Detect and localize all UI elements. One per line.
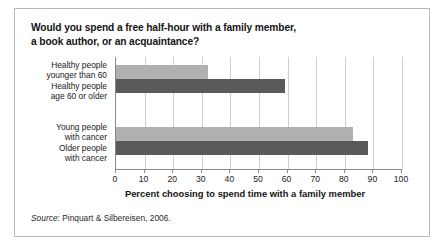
tick-mark [344, 170, 345, 173]
source-label: Source [31, 213, 58, 223]
gridline [402, 57, 403, 169]
x-tick-label: 50 [243, 174, 273, 184]
category-label-healthy-younger: Healthy people younger than 60 [15, 60, 107, 80]
tick-mark [258, 170, 259, 173]
x-tick-label: 0 [100, 174, 130, 184]
chart-title-line-1: Would you spend a free half-hour with a … [31, 21, 411, 35]
x-tick-label: 30 [186, 174, 216, 184]
chart-plot: Healthy people younger than 60 Healthy p… [15, 57, 431, 205]
x-tick-label: 90 [357, 174, 387, 184]
bar-2 [116, 127, 353, 141]
x-axis-title: Percent choosing to spend time with a fa… [75, 188, 415, 199]
x-tick-label: 100 [386, 174, 416, 184]
tick-mark [172, 170, 173, 173]
category-label-older-cancer: Older people with cancer [15, 143, 107, 163]
category-label-healthy-older: Healthy people age 60 or older [15, 81, 107, 101]
tick-mark [372, 170, 373, 173]
x-tick-label: 20 [157, 174, 187, 184]
x-tick-label: 10 [129, 174, 159, 184]
x-tick-label: 40 [214, 174, 244, 184]
bar-1 [116, 79, 285, 93]
tick-mark [201, 170, 202, 173]
chart-title-line-2: a book author, or an acquaintance? [31, 35, 411, 49]
source-note: Source: Pinquart & Silbereisen, 2006. [31, 213, 171, 223]
chart-title: Would you spend a free half-hour with a … [31, 21, 411, 49]
bar-3 [116, 141, 368, 155]
tick-mark [115, 170, 116, 173]
x-tick-label: 70 [300, 174, 330, 184]
plot-area [115, 57, 402, 170]
tick-mark [229, 170, 230, 173]
gridline [373, 57, 374, 169]
tick-mark [401, 170, 402, 173]
tick-mark [144, 170, 145, 173]
tick-mark [315, 170, 316, 173]
category-axis-labels: Healthy people younger than 60 Healthy p… [15, 57, 111, 169]
x-tick-label: 60 [272, 174, 302, 184]
bar-0 [116, 65, 208, 79]
tick-mark [287, 170, 288, 173]
x-tick-label: 80 [329, 174, 359, 184]
source-citation: : Pinquart & Silbereisen, 2006. [58, 213, 171, 223]
x-axis-ticks: 0102030405060708090100 [115, 170, 402, 184]
category-label-young-cancer: Young people with cancer [15, 122, 107, 142]
figure-panel: Would you spend a free half-hour with a … [14, 8, 430, 237]
